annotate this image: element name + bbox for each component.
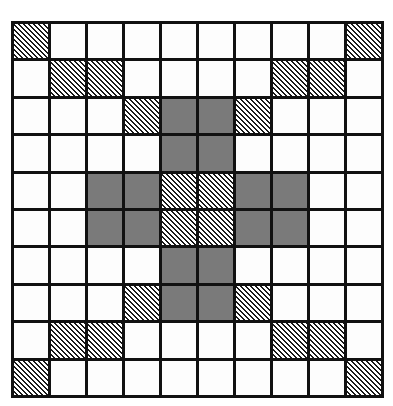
gray-cell — [199, 99, 233, 133]
gray-cell — [199, 248, 233, 282]
hatched-cell — [14, 361, 48, 395]
hatched-cell — [51, 323, 85, 357]
empty-cell — [125, 248, 159, 282]
hatched-cell — [199, 211, 233, 245]
empty-cell — [51, 211, 85, 245]
empty-cell — [236, 24, 270, 58]
empty-cell — [310, 211, 344, 245]
hatched-cell — [51, 61, 85, 95]
empty-cell — [162, 61, 196, 95]
empty-cell — [88, 99, 122, 133]
empty-cell — [273, 361, 307, 395]
empty-cell — [236, 136, 270, 170]
gray-cell — [162, 248, 196, 282]
empty-cell — [162, 361, 196, 395]
empty-cell — [199, 323, 233, 357]
gray-cell — [199, 286, 233, 320]
gray-cell — [162, 286, 196, 320]
hatched-cell — [162, 174, 196, 208]
gray-cell — [88, 211, 122, 245]
empty-cell — [347, 99, 381, 133]
empty-cell — [88, 24, 122, 58]
empty-cell — [310, 286, 344, 320]
hatched-cell — [310, 61, 344, 95]
empty-cell — [347, 286, 381, 320]
empty-cell — [14, 286, 48, 320]
empty-cell — [88, 286, 122, 320]
gray-cell — [88, 174, 122, 208]
hatched-cell — [347, 24, 381, 58]
empty-cell — [310, 136, 344, 170]
empty-cell — [236, 361, 270, 395]
empty-cell — [236, 248, 270, 282]
hatched-cell — [125, 286, 159, 320]
hatched-cell — [199, 174, 233, 208]
hatched-cell — [273, 323, 307, 357]
empty-cell — [199, 361, 233, 395]
empty-cell — [236, 323, 270, 357]
gray-cell — [273, 211, 307, 245]
empty-cell — [273, 99, 307, 133]
empty-cell — [347, 174, 381, 208]
empty-cell — [273, 24, 307, 58]
empty-cell — [51, 24, 85, 58]
empty-cell — [347, 248, 381, 282]
empty-cell — [51, 361, 85, 395]
empty-cell — [347, 61, 381, 95]
gray-cell — [125, 211, 159, 245]
hatched-cell — [162, 211, 196, 245]
empty-cell — [51, 99, 85, 133]
empty-cell — [310, 248, 344, 282]
empty-cell — [14, 61, 48, 95]
hatched-cell — [273, 61, 307, 95]
empty-cell — [162, 323, 196, 357]
gray-cell — [236, 211, 270, 245]
empty-cell — [14, 248, 48, 282]
empty-cell — [14, 323, 48, 357]
gray-cell — [236, 174, 270, 208]
empty-cell — [310, 174, 344, 208]
hatched-cell — [88, 323, 122, 357]
empty-cell — [273, 248, 307, 282]
empty-cell — [199, 61, 233, 95]
empty-cell — [347, 136, 381, 170]
empty-cell — [125, 61, 159, 95]
hatched-cell — [310, 323, 344, 357]
empty-cell — [88, 248, 122, 282]
empty-cell — [14, 174, 48, 208]
empty-cell — [310, 361, 344, 395]
empty-cell — [273, 136, 307, 170]
empty-cell — [51, 286, 85, 320]
hatched-cell — [236, 99, 270, 133]
hatched-cell — [88, 61, 122, 95]
empty-cell — [199, 24, 233, 58]
gray-cell — [273, 174, 307, 208]
empty-cell — [51, 248, 85, 282]
gray-cell — [125, 174, 159, 208]
empty-cell — [125, 323, 159, 357]
empty-cell — [125, 361, 159, 395]
empty-cell — [88, 361, 122, 395]
empty-cell — [14, 211, 48, 245]
hatched-cell — [347, 361, 381, 395]
empty-cell — [347, 211, 381, 245]
empty-cell — [14, 99, 48, 133]
gray-cell — [162, 99, 196, 133]
empty-cell — [347, 323, 381, 357]
empty-cell — [88, 136, 122, 170]
empty-cell — [236, 61, 270, 95]
empty-cell — [51, 174, 85, 208]
empty-cell — [51, 136, 85, 170]
empty-cell — [273, 286, 307, 320]
empty-cell — [162, 24, 196, 58]
gray-cell — [199, 136, 233, 170]
pattern-grid — [11, 21, 384, 398]
empty-cell — [14, 136, 48, 170]
empty-cell — [310, 99, 344, 133]
hatched-cell — [236, 286, 270, 320]
hatched-cell — [125, 99, 159, 133]
empty-cell — [125, 24, 159, 58]
gray-cell — [162, 136, 196, 170]
hatched-cell — [14, 24, 48, 58]
empty-cell — [125, 136, 159, 170]
